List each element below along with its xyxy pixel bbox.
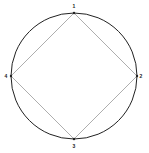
label-4: 4 — [5, 73, 8, 79]
vertex-4 — [10, 75, 12, 77]
circle — [11, 13, 137, 139]
label-3: 3 — [73, 143, 76, 149]
inscribed-square — [11, 13, 137, 139]
label-1: 1 — [73, 3, 76, 9]
vertex-1 — [73, 12, 75, 14]
vertex-3 — [73, 138, 75, 140]
label-2: 2 — [140, 73, 143, 79]
vertex-2 — [136, 75, 138, 77]
diagram-canvas: 1 2 3 4 — [0, 0, 149, 153]
